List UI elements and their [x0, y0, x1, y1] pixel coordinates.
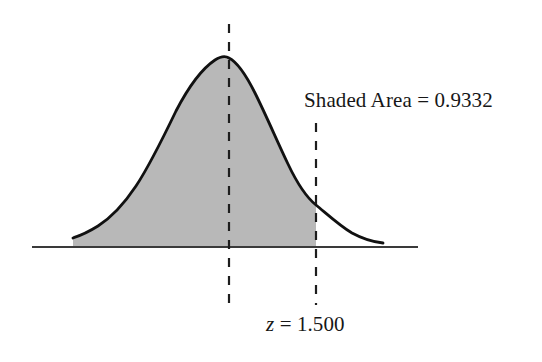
normal-distribution-figure	[0, 0, 542, 362]
z-value-label: z = 1.500	[266, 314, 345, 335]
z-value-text: = 1.500	[274, 312, 344, 336]
shaded-area-label: Shaded Area = 0.9332	[304, 90, 493, 111]
